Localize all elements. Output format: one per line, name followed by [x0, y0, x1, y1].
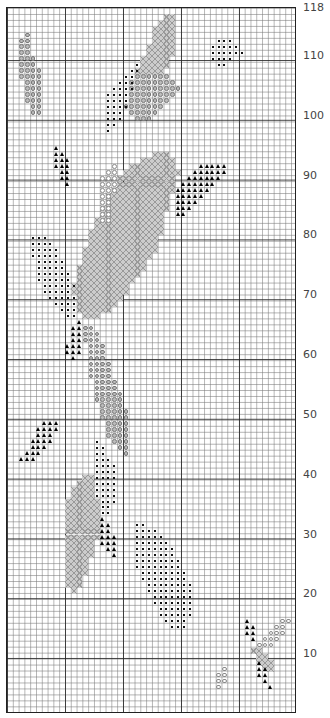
circle-stitch-icon — [106, 217, 112, 223]
y-tick-label: 70 — [303, 289, 317, 301]
cross-stitch-icon — [164, 62, 170, 68]
triangle-stitch-icon — [216, 176, 222, 182]
cross-stitch-icon — [106, 307, 112, 313]
triangle-stitch-icon — [204, 187, 210, 193]
triangle-stitch-icon — [77, 349, 83, 355]
dot-stitch-icon — [129, 86, 135, 92]
y-tick-label: 118 — [303, 2, 324, 14]
cross-stitch-icon — [88, 552, 94, 558]
dot-stitch-icon — [222, 62, 228, 68]
cross-stitch-icon — [135, 271, 141, 277]
cross-stitch-icon — [129, 277, 135, 283]
y-tick-label: 110 — [303, 50, 324, 62]
y-tick-label: 20 — [303, 588, 317, 600]
cross-stitch-icon — [146, 253, 152, 259]
triangle-stitch-icon — [30, 457, 36, 463]
cross-stitch-icon — [94, 313, 100, 319]
cross-stitch-icon — [164, 205, 170, 211]
y-tick-label: 60 — [303, 349, 317, 361]
triangle-stitch-icon — [65, 182, 71, 188]
dot-stitch-icon — [187, 612, 193, 618]
cross-stitch-icon — [158, 229, 164, 235]
circle-fill-stitch-icon — [36, 110, 42, 116]
dot-stitch-icon — [123, 104, 129, 110]
y-tick-label: 50 — [303, 409, 317, 421]
triangle-stitch-icon — [181, 211, 187, 217]
dot-stitch-icon — [111, 499, 117, 505]
triangle-stitch-icon — [187, 205, 193, 211]
cross-stitch-icon — [111, 301, 117, 307]
cross-stitch-icon — [175, 170, 181, 176]
cross-stitch-icon — [123, 289, 129, 295]
circle-stitch-icon — [274, 636, 280, 642]
triangle-stitch-icon — [71, 355, 77, 361]
circle-stitch-icon — [216, 684, 222, 690]
triangle-stitch-icon — [42, 445, 48, 451]
cross-stitch-icon — [169, 50, 175, 56]
triangle-stitch-icon — [210, 182, 216, 188]
cross-stitch-grid — [6, 7, 296, 713]
dot-stitch-icon — [239, 50, 245, 56]
dot-stitch-icon — [181, 624, 187, 630]
y-tick-label: 40 — [303, 469, 317, 481]
cross-stitch-icon — [169, 187, 175, 193]
triangle-stitch-icon — [111, 552, 117, 558]
dot-stitch-icon — [135, 68, 141, 74]
triangle-stitch-icon — [53, 427, 59, 433]
triangle-stitch-icon — [268, 684, 274, 690]
cross-stitch-icon — [71, 588, 77, 594]
dot-stitch-icon — [106, 511, 112, 517]
circle-stitch-icon — [280, 630, 286, 636]
y-tick-label: 100 — [303, 110, 324, 122]
y-tick-label: 90 — [303, 170, 317, 182]
triangle-stitch-icon — [48, 439, 54, 445]
dot-stitch-icon — [106, 128, 112, 134]
y-tick-label: 30 — [303, 529, 317, 541]
triangle-stitch-icon — [193, 199, 199, 205]
circle-fill-stitch-icon — [123, 451, 129, 457]
cross-stitch-icon — [268, 666, 274, 672]
y-tick-label: 80 — [303, 229, 317, 241]
circle-stitch-icon — [285, 618, 291, 624]
circle-stitch-icon — [111, 187, 117, 193]
triangle-stitch-icon — [198, 193, 204, 199]
cross-stitch-icon — [82, 570, 88, 576]
circle-stitch-icon — [222, 678, 228, 684]
circle-fill-stitch-icon — [146, 116, 152, 122]
circle-stitch-icon — [268, 642, 274, 648]
triangle-stitch-icon — [222, 170, 228, 176]
circle-fill-stitch-icon — [152, 110, 158, 116]
cross-stitch-icon — [77, 582, 83, 588]
cross-stitch-icon — [152, 247, 158, 253]
dot-stitch-icon — [117, 116, 123, 122]
circle-fill-stitch-icon — [169, 92, 175, 98]
dot-stitch-icon — [71, 283, 77, 289]
dot-stitch-icon — [111, 122, 117, 128]
cross-stitch-icon — [140, 265, 146, 271]
circle-fill-stitch-icon — [164, 98, 170, 104]
y-tick-label: 10 — [303, 648, 317, 660]
dot-stitch-icon — [227, 56, 233, 62]
cross-stitch-icon — [117, 295, 123, 301]
circle-fill-stitch-icon — [158, 104, 164, 110]
circle-fill-stitch-icon — [175, 86, 181, 92]
triangle-stitch-icon — [36, 451, 42, 457]
